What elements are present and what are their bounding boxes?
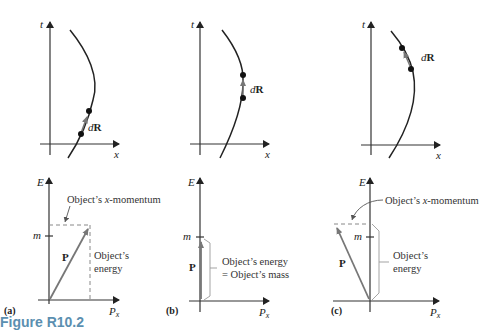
energy-mass-annotation-line1: Object’s energy <box>222 256 289 267</box>
t-axis-label: t <box>362 18 366 30</box>
P-vector <box>50 229 88 299</box>
panel-a-spacetime-diagram: t x dR <box>40 18 119 160</box>
Px-axis-label: Px <box>429 306 441 320</box>
x-axis-label: x <box>435 149 441 161</box>
m-tick-label: m <box>183 230 191 242</box>
panel-c-energy-momentum-diagram: E Px m P Object’s energy Object’s x-mome… <box>331 176 479 320</box>
panel-b-label: (b) <box>166 305 178 317</box>
Px-axis-label: Px <box>108 305 120 319</box>
energy-annotation-line2: energy <box>94 263 123 274</box>
annotation-curved-pointer <box>352 200 383 220</box>
panel-c-label: (c) <box>331 305 342 317</box>
m-tick-label: m <box>33 229 41 241</box>
energy-annotation-line2: energy <box>393 263 422 274</box>
E-axis-label: E <box>187 176 195 188</box>
event-dot <box>78 131 84 137</box>
P-label: P <box>189 261 196 273</box>
energy-bracket <box>372 224 379 300</box>
x-momentum-annotation: Object’s x-momentum <box>67 194 161 205</box>
P-label: P <box>339 257 346 269</box>
panel-b-energy-momentum-diagram: E Px m P Object’s energy = Object’s mass… <box>166 176 289 320</box>
event-dot <box>240 72 246 78</box>
m-tick-label: m <box>354 230 362 242</box>
event-dot <box>86 108 92 114</box>
Px-axis-label: Px <box>258 306 270 320</box>
panel-a-energy-momentum-diagram: E Px m P Object’s x-momentum Object’s en… <box>4 176 161 319</box>
dR-label: dR <box>421 51 436 63</box>
E-axis-label: E <box>358 176 366 188</box>
event-dot <box>408 66 414 72</box>
x-axis-label: x <box>264 148 270 160</box>
E-axis-label: E <box>36 176 44 188</box>
dR-label: dR <box>250 83 265 95</box>
t-axis-label: t <box>40 18 44 30</box>
figure-canvas: t x dR t x dR t x dR E Px m <box>0 0 498 336</box>
annotation-pointer <box>65 206 70 222</box>
energy-bracket <box>204 239 210 300</box>
worldline <box>220 30 243 158</box>
event-dot <box>399 45 405 51</box>
energy-mass-annotation-line2: = Object’s mass <box>222 269 289 280</box>
P-label: P <box>62 251 69 263</box>
energy-annotation-line1: Object’s <box>94 250 129 261</box>
energy-annotation-line1: Object’s <box>393 250 428 261</box>
x-axis-label: x <box>113 148 119 160</box>
worldline <box>68 30 95 158</box>
dR-label: dR <box>88 121 103 133</box>
panel-b-spacetime-diagram: t x dR <box>190 18 270 160</box>
event-dot <box>240 95 246 101</box>
figure-caption: Figure R10.2 <box>0 314 84 330</box>
x-momentum-annotation: Object’s x-momentum <box>385 195 479 206</box>
t-axis-label: t <box>191 18 195 30</box>
panel-c-spacetime-diagram: t x dR <box>361 18 441 161</box>
